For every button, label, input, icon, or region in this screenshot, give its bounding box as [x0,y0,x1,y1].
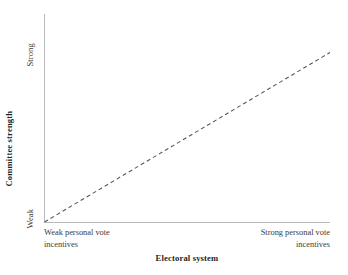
y-axis-line [44,14,45,223]
y-axis-tick-strong: Strong [26,43,35,66]
x-axis-tick-strong-line1: Strong personal vote [261,228,330,237]
x-axis-tick-strong-line2: incentives [220,239,330,251]
x-axis-line [44,222,330,223]
trend-line-dashed [45,52,331,222]
figure-container: Strong Weak Committee strength Weak pers… [0,0,348,275]
x-axis-tick-weak-line1: Weak personal vote [44,228,110,237]
y-axis-title: Committee strength [5,111,14,187]
x-axis-tick-strong: Strong personal vote incentives [220,227,330,250]
x-axis-title: Electoral system [44,253,330,263]
y-axis-tick-weak: Weak [26,209,35,229]
x-axis-tick-weak: Weak personal vote incentives [44,227,154,250]
x-axis-tick-weak-line2: incentives [44,239,154,251]
